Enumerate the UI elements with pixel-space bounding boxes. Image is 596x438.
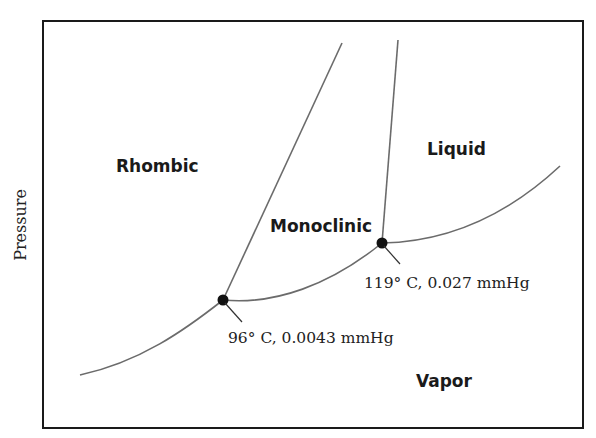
monoclinic-vapor-boundary <box>223 243 382 301</box>
region-label-rhombic: Rhombic <box>116 156 199 176</box>
triple-point-1-leader <box>225 303 242 322</box>
region-label-monoclinic: Monoclinic <box>270 216 372 236</box>
region-label-vapor: Vapor <box>416 371 473 391</box>
phase-diagram: Pressure Rhombic Monoclinic Liquid Vapor… <box>0 0 596 438</box>
monoclinic-liquid-boundary <box>382 40 398 243</box>
triple-point-1-label: 96° C, 0.0043 mmHg <box>228 329 394 347</box>
rhombic-vapor-boundary <box>80 300 223 375</box>
triple-point-2-marker <box>377 238 388 249</box>
rhombic-monoclinic-boundary <box>223 43 342 300</box>
y-axis-label: Pressure <box>11 189 30 261</box>
region-label-liquid: Liquid <box>427 139 486 159</box>
liquid-vapor-boundary <box>382 166 560 243</box>
triple-point-2-label: 119° C, 0.027 mmHg <box>364 274 530 292</box>
triple-point-2-leader <box>384 246 400 264</box>
triple-point-1-marker <box>218 295 229 306</box>
